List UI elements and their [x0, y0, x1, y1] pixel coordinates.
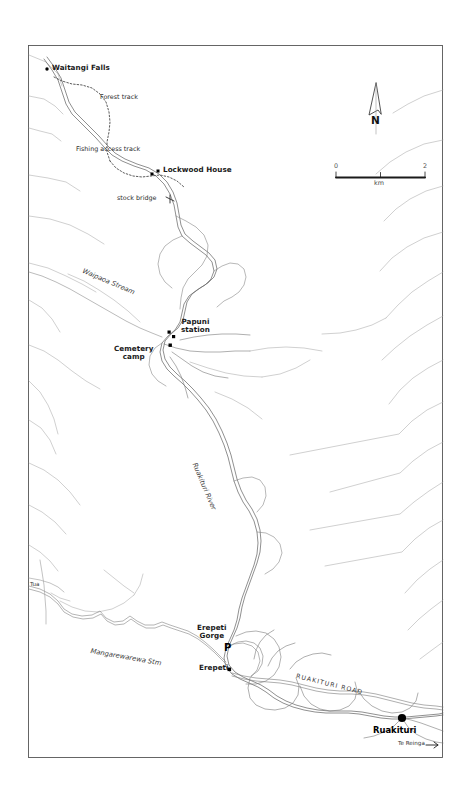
- label-erepeti-gorge-line2: Gorge: [197, 632, 227, 640]
- label-ruakituri: Ruakituri: [373, 726, 416, 735]
- label-cemetery-camp-line2: camp: [114, 353, 153, 361]
- waitangi-falls-marker: [45, 67, 48, 70]
- papuni-station-marker-3: [169, 344, 172, 347]
- label-cemetery-camp: Cemetery camp: [114, 345, 153, 361]
- scale-unit-label: km: [374, 180, 384, 187]
- label-erepeti: Erepeti: [199, 664, 229, 672]
- map-canvas: Waitangi Falls Forest track Fishing acce…: [0, 0, 473, 810]
- papuni-station-marker-2: [172, 335, 175, 338]
- label-forest-track: Forest track: [100, 94, 138, 101]
- label-te-reinga: Te Reinga: [398, 741, 425, 747]
- lockwood-house-marker-2: [157, 170, 160, 173]
- label-lockwood-house: Lockwood House: [163, 166, 232, 174]
- lockwood-house-marker-1: [151, 173, 154, 176]
- papuni-station-marker-1: [168, 331, 171, 334]
- map-vector-layer: [0, 0, 473, 810]
- parking-symbol: P: [224, 643, 231, 654]
- label-stock-bridge: stock bridge: [117, 195, 157, 202]
- label-waitangi-falls: Waitangi Falls: [52, 64, 110, 72]
- scale-max-label: 2: [423, 163, 427, 170]
- label-tua: Tua: [30, 582, 40, 588]
- scale-min-label: 0: [334, 163, 338, 170]
- label-fishing-access-track: Fishing access track: [76, 146, 140, 153]
- label-erepeti-gorge: Erepeti Gorge: [197, 624, 227, 640]
- ruakituri-town-marker: [398, 714, 406, 722]
- north-arrow-label: N: [371, 115, 380, 126]
- label-papuni-station: Papuni station: [181, 318, 210, 334]
- label-papuni-station-line2: station: [181, 326, 210, 334]
